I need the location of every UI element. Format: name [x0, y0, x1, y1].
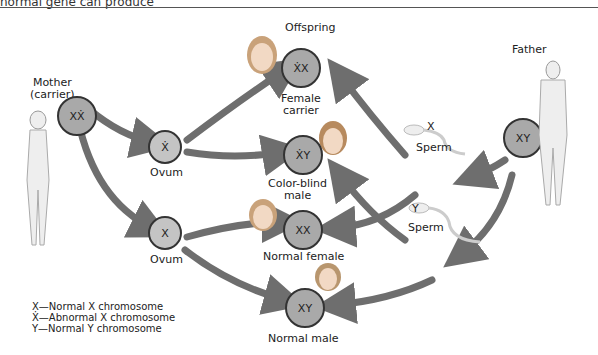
girl-face-icon: [245, 35, 279, 75]
legend-item: Y—Normal Y chromosome: [32, 323, 175, 334]
legend-text: —Normal X chromosome: [39, 301, 163, 312]
ovum2-label: Ovum: [150, 254, 183, 266]
legend-text: —Normal Y chromosome: [38, 323, 162, 334]
normal-male-label: Normal male: [268, 333, 339, 345]
normal-male-genotype: XY: [298, 302, 312, 315]
legend-item: X—Normal X chromosome: [32, 301, 175, 312]
female-carrier-label: Female carrier: [281, 93, 321, 117]
colorblind-male-genotype: ẊY: [296, 149, 310, 162]
normal-female-genotype: XX: [295, 224, 310, 237]
sperm-x-label: Sperm: [416, 142, 452, 154]
mother-genotype-circle: XẊ: [57, 96, 97, 136]
father-label: Father: [512, 44, 547, 56]
ovum2-circle: X: [148, 216, 182, 250]
ovum2-genotype: X: [161, 227, 169, 240]
girl2-face-icon: [248, 198, 278, 232]
legend-item: Ẋ—Abnormal X chromosome: [32, 312, 175, 323]
mother-genotype: XẊ: [69, 110, 84, 123]
sperm-x-genotype: X: [427, 121, 435, 133]
normal-male-circle: XY: [285, 288, 325, 328]
father-figure-icon: [533, 60, 573, 210]
legend-symbol: X: [32, 301, 39, 312]
female-carrier-line2: carrier: [281, 105, 321, 117]
offspring-title: Offspring: [285, 22, 335, 34]
female-carrier-circle: ẊX: [281, 48, 321, 88]
legend: X—Normal X chromosome Ẋ—Abnormal X chrom…: [32, 301, 175, 334]
legend-symbol: Ẋ: [32, 312, 39, 323]
mother-figure-icon: [18, 110, 58, 250]
sperm-y-genotype: Y: [412, 203, 419, 215]
colorblind-male-circle: ẊY: [283, 135, 323, 175]
father-genotype: XY: [516, 132, 530, 145]
boy2-face-icon: [314, 262, 342, 292]
legend-text: —Abnormal X chromosome: [39, 312, 175, 323]
ovum1-circle: Ẋ: [148, 130, 182, 164]
sperm-y-label: Sperm: [408, 222, 444, 234]
ovum1-label: Ovum: [150, 167, 183, 179]
ovum1-genotype: Ẋ: [161, 141, 169, 154]
normal-female-circle: XX: [283, 210, 323, 250]
female-carrier-genotype: ẊX: [293, 62, 308, 75]
